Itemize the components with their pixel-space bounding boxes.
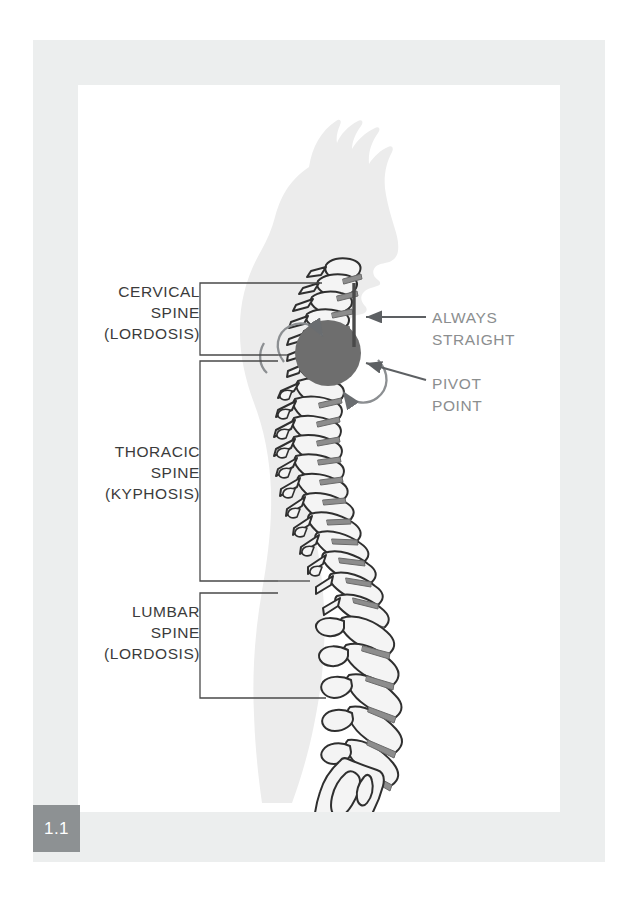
label-lumbar-spine: LUMBAR SPINE (LORDOSIS) <box>104 601 200 664</box>
figure-number-badge: 1.1 <box>33 805 80 852</box>
label-pivot-point: PIVOT POINT <box>432 373 482 417</box>
figure-page: CERVICAL SPINE (LORDOSIS) THORACIC SPINE… <box>0 0 638 903</box>
label-cervical-spine: CERVICAL SPINE (LORDOSIS) <box>104 281 200 344</box>
label-always-straight: ALWAYS STRAIGHT <box>432 307 515 351</box>
figure-canvas: CERVICAL SPINE (LORDOSIS) THORACIC SPINE… <box>78 85 560 812</box>
left-label-group: CERVICAL SPINE (LORDOSIS) THORACIC SPINE… <box>78 85 560 812</box>
figure-number-text: 1.1 <box>44 819 69 839</box>
label-thoracic-spine: THORACIC SPINE (KYPHOSIS) <box>105 441 200 504</box>
